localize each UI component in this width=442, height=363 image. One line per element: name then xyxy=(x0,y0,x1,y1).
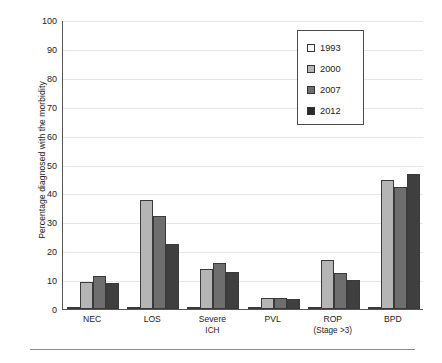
legend-label: 2012 xyxy=(320,106,341,116)
legend-label: 2007 xyxy=(320,85,341,95)
x-tick-label: NEC xyxy=(83,313,101,325)
y-tick-label: 80 xyxy=(47,74,57,84)
legend-item: 2000 xyxy=(307,58,363,79)
bar xyxy=(261,298,274,309)
y-tick-label: 60 xyxy=(47,132,57,142)
x-tick-label: PVL xyxy=(264,313,280,325)
bar xyxy=(200,269,213,309)
y-tick-label: 40 xyxy=(47,189,57,199)
bar xyxy=(381,180,394,309)
legend-swatch-icon xyxy=(307,44,315,52)
bar xyxy=(394,187,407,309)
y-axis-title: Percentage diagnosed with the morbidity xyxy=(37,45,47,275)
y-tick-label: 0 xyxy=(52,305,57,315)
bar xyxy=(166,244,179,309)
y-tick-label: 30 xyxy=(47,218,57,228)
bar xyxy=(127,307,140,309)
y-tick-label: 90 xyxy=(47,45,57,55)
legend: 1993200020072012 xyxy=(297,30,364,125)
y-tick-label: 70 xyxy=(47,103,57,113)
bar xyxy=(308,307,321,309)
y-tick-label: 10 xyxy=(47,276,57,286)
bars-layer xyxy=(63,21,423,309)
bar xyxy=(321,260,334,309)
plot-area: 0102030405060708090100 xyxy=(62,21,423,310)
footer-divider xyxy=(30,349,415,350)
bar xyxy=(106,283,119,309)
legend-swatch-icon xyxy=(307,107,315,115)
bar xyxy=(93,276,106,309)
x-tick-label: ROP(Stage >3) xyxy=(314,313,352,337)
x-tick-label: LOS xyxy=(144,313,161,325)
legend-item: 2007 xyxy=(307,79,363,100)
bar xyxy=(274,298,287,309)
legend-label: 2000 xyxy=(320,64,341,74)
bar-group xyxy=(183,21,243,309)
y-tick-label: 50 xyxy=(47,161,57,171)
bar xyxy=(287,299,300,309)
bar xyxy=(153,216,166,309)
bar xyxy=(187,307,200,309)
y-tick-label: 20 xyxy=(47,247,57,257)
bar xyxy=(334,273,347,309)
legend-label: 1993 xyxy=(320,43,341,53)
x-axis-tick-labels: NECLOSSevereICHPVLROP(Stage >3)BPD xyxy=(62,313,423,359)
y-tick-label: 100 xyxy=(42,16,57,26)
bar-chart-figure: Percentage diagnosed with the morbidity … xyxy=(0,0,442,363)
bar xyxy=(226,272,239,309)
legend-swatch-icon xyxy=(307,65,315,73)
legend-swatch-icon xyxy=(307,86,315,94)
bar-group xyxy=(364,21,424,309)
bar xyxy=(80,282,93,309)
x-tick-label: BPD xyxy=(384,313,402,325)
bar xyxy=(248,307,261,309)
legend-item: 1993 xyxy=(307,37,363,58)
bar xyxy=(368,307,381,309)
bar-group xyxy=(244,21,304,309)
bar xyxy=(67,307,80,309)
x-tick-label: SevereICH xyxy=(199,313,226,337)
bar-group xyxy=(63,21,123,309)
bar xyxy=(213,263,226,309)
bar-group xyxy=(123,21,183,309)
bar xyxy=(347,280,360,309)
bar xyxy=(407,174,420,309)
bar xyxy=(140,200,153,309)
legend-item: 2012 xyxy=(307,100,363,121)
